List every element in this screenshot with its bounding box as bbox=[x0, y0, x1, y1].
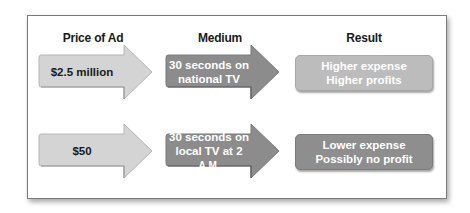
result-box-row1: Higher expense Higher profits bbox=[295, 55, 433, 91]
header-price-of-ad: Price of Ad bbox=[33, 31, 153, 45]
medium-arrow-row1: 30 seconds onnational TV bbox=[165, 44, 281, 100]
result-line2: Higher profits bbox=[326, 73, 401, 87]
medium-line1: 30 seconds on bbox=[169, 131, 249, 143]
medium-line1: 30 seconds on bbox=[169, 59, 249, 71]
medium-line2: national TV bbox=[178, 73, 240, 85]
medium-value: 30 seconds onlocal TV at 2 A.M. bbox=[165, 123, 253, 179]
result-line1: Lower expense bbox=[322, 138, 405, 152]
result-line1: Higher expense bbox=[321, 59, 407, 73]
price-arrow-row2: $50 bbox=[38, 123, 154, 179]
result-box-row2: Lower expense Possibly no profit bbox=[295, 134, 433, 170]
header-medium: Medium bbox=[160, 31, 280, 45]
medium-value: 30 seconds onnational TV bbox=[165, 44, 253, 100]
header-result: Result bbox=[304, 31, 424, 45]
price-value: $50 bbox=[38, 123, 126, 179]
price-value: $2.5 million bbox=[38, 44, 126, 100]
medium-arrow-row2: 30 seconds onlocal TV at 2 A.M. bbox=[165, 123, 281, 179]
price-arrow-row1: $2.5 million bbox=[38, 44, 154, 100]
medium-line2: local TV at 2 bbox=[175, 145, 242, 157]
result-line2: Possibly no profit bbox=[315, 152, 412, 166]
medium-line2-am: A.M. bbox=[198, 160, 219, 171]
